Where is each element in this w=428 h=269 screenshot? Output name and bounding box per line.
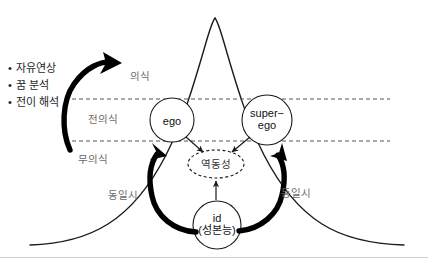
superego-node-label: super− ego (250, 108, 284, 132)
dynamics-node-label: 역동성 (201, 159, 231, 171)
superego-to-dynamics-arrow (232, 137, 250, 152)
list-item: •꿈 분석 (8, 77, 59, 94)
id-node-label: id (성본능) (198, 213, 235, 237)
edge-label-identification-left: 동일시 (108, 189, 139, 201)
technique-label: 꿈 분석 (16, 79, 49, 91)
bullet-icon: • (8, 94, 16, 111)
ego-node-label: ego (163, 115, 181, 127)
techniques-list: •자유연상 •꿈 분석 •전이 해석 (8, 60, 59, 111)
bottom-divider (0, 257, 428, 258)
therapy-arrow (64, 52, 122, 150)
id-label-line2: (성본능) (198, 225, 235, 237)
technique-label: 자유연상 (16, 62, 56, 74)
technique-label: 전이 해석 (16, 96, 59, 108)
layer-label-preconscious: 전의식 (88, 113, 119, 125)
list-item: •자유연상 (8, 60, 59, 77)
superego-label-line2: ego (250, 120, 284, 132)
bullet-icon: • (8, 60, 16, 77)
id-to-ego-arrow (150, 143, 196, 232)
ego-to-dynamics-arrow (186, 137, 203, 152)
diagram-canvas: •자유연상 •꿈 분석 •전이 해석 의식 전의식 무의식 동일시 동일시 eg… (0, 0, 428, 269)
layer-label-conscious: 의식 (130, 70, 150, 82)
bullet-icon: • (8, 77, 16, 94)
id-to-superego-arrow (239, 143, 287, 231)
edge-label-identification-right: 동일시 (281, 187, 312, 199)
layer-label-unconscious: 무의식 (78, 153, 109, 165)
list-item: •전이 해석 (8, 94, 59, 111)
